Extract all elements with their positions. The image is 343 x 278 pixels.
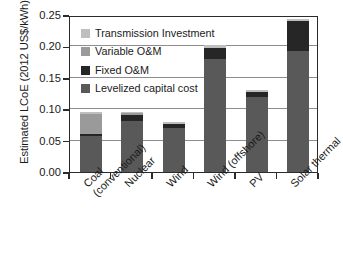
legend-swatch-transmission-investment [81, 29, 90, 38]
legend-label: Variable O&M [95, 46, 161, 57]
x-axis-tick-mark [151, 173, 153, 179]
y-axis-tick-label: 0.20 [23, 41, 61, 52]
bar-segment [287, 21, 309, 51]
bar-segment [80, 114, 102, 133]
x-axis-tick-mark [317, 173, 319, 179]
legend-label: Levelized capital cost [95, 83, 198, 94]
x-axis-tick-mark [193, 173, 195, 179]
y-axis-tick-label: 0.15 [23, 73, 61, 84]
plot-area: Transmission Investment Variable O&M Fix… [69, 16, 318, 173]
legend-item: Levelized capital cost [81, 80, 215, 99]
legend-label: Fixed O&M [95, 65, 149, 76]
y-axis-tick-label: 0.00 [23, 167, 61, 178]
legend: Transmission Investment Variable O&M Fix… [81, 24, 215, 98]
legend-label: Transmission Investment [95, 28, 215, 39]
bar-segment [287, 51, 309, 172]
x-axis-tick-label: PV [247, 171, 266, 190]
legend-item: Variable O&M [81, 43, 215, 62]
legend-swatch-levelized-capital-cost [81, 84, 90, 93]
y-axis-tick-label: 0.10 [23, 104, 61, 115]
y-axis-tick-label: 0.25 [23, 10, 61, 21]
legend-item: Transmission Investment [81, 24, 215, 43]
y-axis-tick-label: 0.05 [23, 136, 61, 147]
legend-item: Fixed O&M [81, 61, 215, 80]
gridline [70, 108, 317, 109]
gridline [70, 140, 317, 141]
x-axis-tick-label-line: PV [247, 171, 266, 190]
legend-swatch-variable-om [81, 47, 90, 56]
x-axis-tick-mark [68, 173, 70, 179]
x-axis-tick-mark [234, 173, 236, 179]
x-axis-tick-mark [276, 173, 278, 179]
bar-solar-thermal [287, 19, 309, 172]
legend-swatch-fixed-om [81, 66, 90, 75]
